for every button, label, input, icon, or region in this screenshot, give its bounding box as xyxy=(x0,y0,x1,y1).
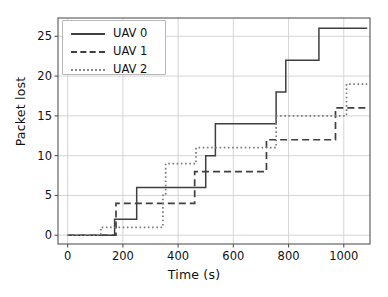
y-tick-label: 15 xyxy=(26,109,52,123)
legend-entry-uav1: UAV 1 xyxy=(63,43,167,61)
y-tick-label: 10 xyxy=(26,149,52,163)
x-tick-label: 800 xyxy=(278,249,300,263)
legend-label-uav1: UAV 1 xyxy=(113,44,147,58)
series-line-uav-2 xyxy=(68,84,368,235)
legend-label-uav0: UAV 0 xyxy=(113,26,147,40)
x-tick-label: 0 xyxy=(64,249,71,263)
legend-entry-uav2: UAV 2 xyxy=(63,61,167,79)
y-tick-label: 20 xyxy=(26,69,52,83)
y-tick-label: 0 xyxy=(26,228,52,242)
x-tick-label: 600 xyxy=(222,249,244,263)
legend-swatch-dashed xyxy=(71,51,105,53)
chart-legend: UAV 0 UAV 1 UAV 2 xyxy=(62,20,166,75)
y-tick-label: 25 xyxy=(26,29,52,43)
legend-swatch-dotted xyxy=(71,69,105,71)
legend-entry-uav0: UAV 0 xyxy=(63,25,167,43)
legend-swatch-solid xyxy=(71,33,105,35)
series-line-uav-1 xyxy=(68,108,368,235)
figure: Packet lost Time (s) 02004006008001000 0… xyxy=(0,0,388,297)
legend-label-uav2: UAV 2 xyxy=(113,62,147,76)
x-tick-label: 1000 xyxy=(329,249,358,263)
x-axis-label: Time (s) xyxy=(0,267,388,282)
x-tick-label: 200 xyxy=(112,249,134,263)
x-tick-label: 400 xyxy=(167,249,189,263)
y-tick-label: 5 xyxy=(26,188,52,202)
